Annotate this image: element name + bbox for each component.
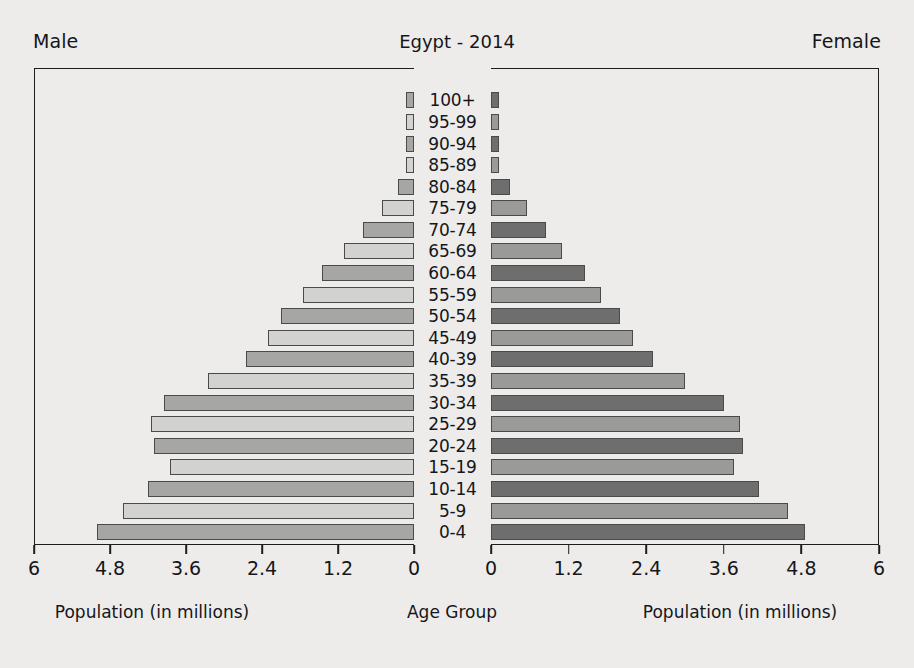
axis-tick-label: 3.6 <box>709 557 739 579</box>
female-bar <box>491 416 740 432</box>
axis-tick-label: 4.8 <box>95 557 125 579</box>
age-group-caption: Age Group <box>407 602 497 622</box>
age-group-label: 100+ <box>414 90 491 112</box>
female-bar <box>491 200 527 216</box>
male-bar <box>406 114 414 130</box>
female-bar-row <box>491 284 879 306</box>
female-bar-row <box>491 305 879 327</box>
female-bar-row <box>491 521 879 543</box>
male-bar <box>406 157 414 173</box>
female-bar-row <box>491 198 879 220</box>
age-group-label: 35-39 <box>414 370 491 392</box>
male-bar <box>406 92 414 108</box>
female-bar-row <box>491 349 879 371</box>
male-bars <box>34 68 414 545</box>
age-group-label: 45-49 <box>414 327 491 349</box>
axis-tick <box>109 545 111 554</box>
axis-tick <box>413 545 415 554</box>
female-bar-row <box>491 133 879 155</box>
age-group-label: 30-34 <box>414 392 491 414</box>
female-bar <box>491 481 759 497</box>
axis-tick <box>645 545 647 554</box>
male-bar <box>322 265 414 281</box>
axis-tick <box>33 545 35 554</box>
male-bar <box>208 373 414 389</box>
female-x-axis: 01.22.43.64.86 <box>491 545 879 555</box>
female-bar <box>491 395 724 411</box>
age-group-label: 85-89 <box>414 154 491 176</box>
female-bar <box>491 265 585 281</box>
age-group-label: 55-59 <box>414 284 491 306</box>
axis-tick <box>568 545 570 554</box>
age-group-label: 90-94 <box>414 133 491 155</box>
male-bar <box>406 136 414 152</box>
female-bar-row <box>491 500 879 522</box>
female-bar-row <box>491 262 879 284</box>
male-axis-caption: Population (in millions) <box>55 602 249 622</box>
male-bar <box>123 503 414 519</box>
male-bar <box>170 459 414 475</box>
axis-tick-label: 0 <box>485 557 497 579</box>
axis-tick <box>723 545 725 554</box>
male-bar-row <box>34 327 414 349</box>
female-bar-row <box>491 241 879 263</box>
axis-tick-label: 0 <box>408 557 420 579</box>
female-bar-row <box>491 435 879 457</box>
female-bar <box>491 351 653 367</box>
axis-tick <box>490 545 492 554</box>
axis-tick <box>878 545 880 554</box>
female-bar-row <box>491 370 879 392</box>
female-bar-row <box>491 327 879 349</box>
male-bar-row <box>34 262 414 284</box>
male-bar-row <box>34 500 414 522</box>
female-bar <box>491 92 499 108</box>
male-bar-row <box>34 413 414 435</box>
female-bar <box>491 503 788 519</box>
male-bar-row <box>34 435 414 457</box>
female-bar-row <box>491 478 879 500</box>
male-bar-row <box>34 241 414 263</box>
male-bar-row <box>34 90 414 112</box>
female-bar <box>491 243 562 259</box>
axis-tick-label: 6 <box>873 557 885 579</box>
axis-tick-label: 2.4 <box>247 557 277 579</box>
male-bar-row <box>34 478 414 500</box>
male-bar-row <box>34 133 414 155</box>
male-bar <box>246 351 414 367</box>
age-group-label: 65-69 <box>414 241 491 263</box>
female-bar <box>491 373 685 389</box>
male-bar-row <box>34 457 414 479</box>
female-bar <box>491 157 499 173</box>
axis-tick-label: 1.2 <box>323 557 353 579</box>
age-group-label: 75-79 <box>414 198 491 220</box>
age-group-label: 0-4 <box>414 521 491 543</box>
age-group-label: 5-9 <box>414 500 491 522</box>
male-bar <box>151 416 414 432</box>
female-bar-row <box>491 154 879 176</box>
axis-tick-label: 2.4 <box>631 557 661 579</box>
male-bar <box>344 243 414 259</box>
female-bar <box>491 287 601 303</box>
female-bar <box>491 438 743 454</box>
male-bar-row <box>34 219 414 241</box>
female-bar-row <box>491 392 879 414</box>
male-bar <box>154 438 414 454</box>
male-bar <box>268 330 414 346</box>
age-group-label: 50-54 <box>414 305 491 327</box>
male-bar <box>97 524 414 540</box>
age-group-label: 25-29 <box>414 413 491 435</box>
male-bar-row <box>34 284 414 306</box>
male-bar-row <box>34 521 414 543</box>
age-group-label: 20-24 <box>414 435 491 457</box>
axis-tick <box>801 545 803 554</box>
female-bar <box>491 330 633 346</box>
male-bar-row <box>34 154 414 176</box>
male-bar <box>164 395 414 411</box>
female-bar <box>491 459 734 475</box>
male-bar <box>281 308 414 324</box>
age-group-label: 15-19 <box>414 457 491 479</box>
male-bar-row <box>34 370 414 392</box>
axis-tick-label: 4.8 <box>786 557 816 579</box>
age-group-label: 95-99 <box>414 111 491 133</box>
axis-tick <box>185 545 187 554</box>
